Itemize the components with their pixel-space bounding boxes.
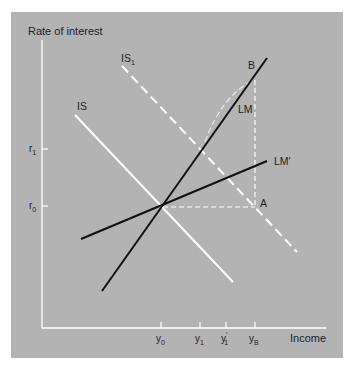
- yB-label: yB: [249, 333, 259, 346]
- y0-label: y0: [156, 333, 165, 346]
- r0-label: r0: [29, 200, 36, 213]
- is-label: IS: [77, 100, 87, 112]
- y1-label: y1: [195, 333, 204, 346]
- lm-prime-label: LM′: [274, 155, 291, 167]
- is1-label: IS1: [121, 52, 135, 66]
- axes: [42, 40, 326, 328]
- guide-lines: [163, 80, 255, 207]
- is-lm-diagram: Rate of interest Income IS IS1 LM LM′ B …: [0, 0, 354, 371]
- lm-label: LM: [238, 103, 253, 115]
- point-b-label: B: [248, 59, 255, 71]
- r1-label: r1: [29, 143, 36, 156]
- lm-curve: [102, 58, 267, 291]
- x-axis-label: Income: [290, 332, 326, 344]
- lm-prime-curve: [81, 161, 267, 239]
- y-axis-label: Rate of interest: [28, 25, 103, 37]
- y1-prime-label: y′1: [221, 331, 228, 346]
- point-a-label: A: [260, 197, 267, 209]
